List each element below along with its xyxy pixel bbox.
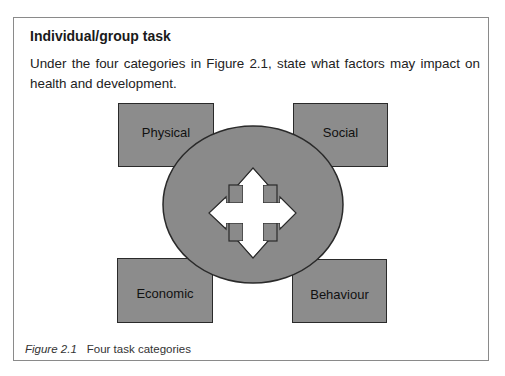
- figure-caption: Figure 2.1Four task categories: [25, 343, 191, 355]
- figure-diagram: [0, 0, 505, 376]
- figure-number: Figure 2.1: [25, 343, 77, 355]
- figure-caption-text: Four task categories: [87, 343, 191, 355]
